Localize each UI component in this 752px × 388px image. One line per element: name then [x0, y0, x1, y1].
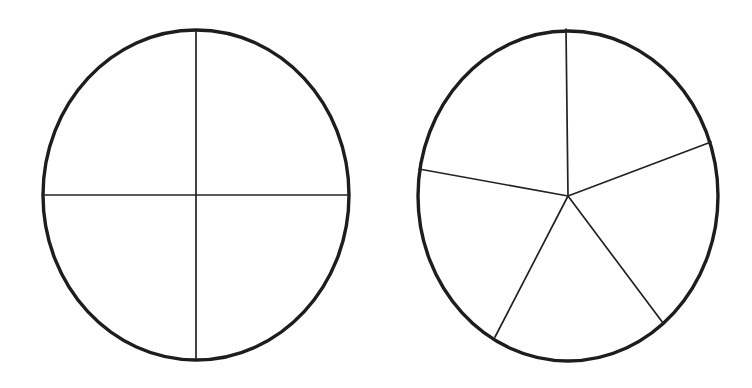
left-circle-group	[43, 30, 349, 360]
fraction-circles-figure	[0, 0, 752, 388]
